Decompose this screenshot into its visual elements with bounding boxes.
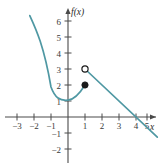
x-tick-label-2: 2 bbox=[100, 121, 105, 131]
x-tick-labels: −3 −2 −1 1 2 3 4 5 bbox=[12, 121, 150, 131]
function-graph-figure: −3 −2 −1 1 2 3 4 5 6 5 4 3 2 1 −1 −2 f(x… bbox=[0, 0, 167, 168]
axes-group bbox=[5, 8, 156, 163]
y-tick-label-3: 3 bbox=[57, 65, 62, 75]
y-tick-label--2: −2 bbox=[51, 145, 61, 155]
open-point-marker bbox=[82, 66, 88, 72]
x-axis-arrow bbox=[150, 114, 156, 119]
y-tick-label--1: −1 bbox=[51, 129, 61, 139]
closed-point-marker bbox=[82, 82, 88, 88]
y-tick-label-6: 6 bbox=[57, 17, 62, 27]
x-tick-label--3: −3 bbox=[12, 121, 22, 131]
y-axis-label: f(x) bbox=[71, 7, 84, 18]
y-tick-labels: 6 5 4 3 2 1 −1 −2 bbox=[51, 17, 61, 155]
graph-canvas: −3 −2 −1 1 2 3 4 5 6 5 4 3 2 1 −1 −2 f(x… bbox=[0, 0, 167, 168]
y-tick-label-5: 5 bbox=[57, 33, 62, 43]
y-axis-arrow bbox=[65, 8, 70, 14]
x-tick-label-1: 1 bbox=[83, 121, 88, 131]
x-tick-label-4: 4 bbox=[134, 121, 139, 131]
y-tick-label-2: 2 bbox=[57, 81, 62, 91]
x-tick-label--2: −2 bbox=[29, 121, 39, 131]
y-tick-label-4: 4 bbox=[57, 49, 62, 59]
x-tick-label-3: 3 bbox=[117, 121, 122, 131]
